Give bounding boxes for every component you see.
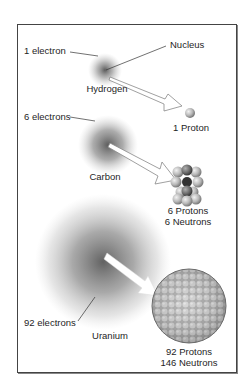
uranium-electron-cloud	[35, 194, 171, 330]
carbon-neutrons-label: 6 Neutrons	[158, 216, 218, 227]
atom-illustration	[0, 0, 247, 387]
uranium-nucleus	[152, 269, 226, 343]
hydrogen-electron-label: 1 electron	[24, 45, 66, 56]
carbon-electron-cloud	[78, 115, 138, 175]
hydrogen-proton	[185, 108, 195, 118]
carbon-name-label: Carbon	[80, 171, 130, 182]
hydrogen-nucleus-label: 1 Proton	[166, 122, 216, 133]
uranium-name-label: Uranium	[80, 330, 140, 341]
hydrogen-name-label: Hydrogen	[82, 83, 132, 94]
uranium-neutrons-label: 146 Neutrons	[154, 357, 224, 368]
carbon-nucleus	[171, 165, 204, 207]
carbon-electron-label: 6 electrons	[24, 111, 70, 122]
uranium-electron-label: 92 electrons	[24, 317, 76, 328]
carbon-protons-label: 6 Protons	[158, 205, 218, 216]
nucleus-callout-label: Nucleus	[170, 39, 204, 50]
uranium-protons-label: 92 Protons	[154, 346, 224, 357]
